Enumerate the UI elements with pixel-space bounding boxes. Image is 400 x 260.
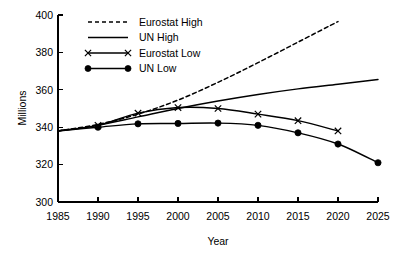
x-axis-title: Year [207, 235, 229, 247]
y-tick-label: 320 [35, 158, 53, 170]
x-tick-label: 1990 [86, 210, 110, 222]
x-tick-label: 1995 [126, 210, 150, 222]
line-chart-figure: 300320340360380400 198519901995200020052… [0, 0, 400, 260]
data-point-marker [215, 120, 221, 126]
x-tick-label: 2015 [286, 210, 310, 222]
data-point-marker [335, 141, 341, 147]
x-tick-label: 2020 [326, 210, 350, 222]
x-tick-label: 2005 [206, 210, 230, 222]
x-axis-ticks: 198519901995200020052010201520202025 [46, 197, 390, 222]
data-point-marker [375, 160, 381, 166]
y-tick-label: 300 [35, 196, 53, 208]
chart-canvas: 300320340360380400 198519901995200020052… [0, 0, 400, 260]
y-tick-label: 360 [35, 84, 53, 96]
y-axis-title: Millions [16, 90, 28, 125]
legend-item-label: UN Low [139, 62, 177, 74]
data-point-marker [255, 122, 261, 128]
y-tick-label: 380 [35, 46, 53, 58]
legend-dot-marker-icon [85, 66, 91, 72]
y-tick-label: 340 [35, 121, 53, 133]
data-point-marker [135, 121, 141, 127]
data-point-marker [175, 120, 181, 126]
x-tick-label: 2010 [246, 210, 270, 222]
legend-item-label: Eurostat High [139, 16, 203, 28]
data-point-marker [95, 124, 101, 130]
legend-item-label: UN High [139, 31, 179, 43]
y-tick-label: 400 [35, 9, 53, 21]
x-tick-label: 2000 [166, 210, 190, 222]
data-point-marker [295, 130, 301, 136]
x-tick-label: 1985 [46, 210, 70, 222]
legend-dot-marker-icon [125, 66, 131, 72]
legend-item-label: Eurostat Low [139, 47, 201, 59]
x-tick-label: 2025 [366, 210, 390, 222]
